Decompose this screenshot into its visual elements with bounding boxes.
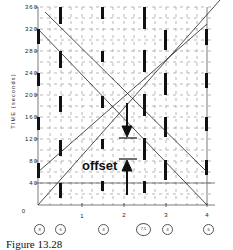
y-tick-label: 40 [18,180,38,186]
circled-label: 6 [55,224,66,235]
y-tick-label: 0 [14,208,26,214]
y-tick-label: 280 [18,48,38,54]
x-tick-label: 3 [161,212,171,218]
y-tick-label: 160 [18,114,38,120]
y-tick-label: 80 [18,158,38,164]
x-tick-label: 4 [202,212,212,218]
outbound-band-lower [38,0,220,205]
inbound-band-upper [45,12,207,172]
circled-label: 6 [98,224,109,235]
y-tick-label: 240 [18,70,38,76]
circled-label: 7.5 [136,223,151,236]
y-axis-label: TIME (seconds) [10,66,16,136]
circled-label: 8 [34,224,45,235]
circled-label: 6 [162,224,173,235]
y-tick-label: 360 [18,4,38,10]
down-arrow-head-icon [122,126,132,137]
circled-label: 6 [203,224,214,235]
x-tick-label: 2 [119,212,129,218]
y-tick-label: 320 [18,26,38,32]
y-tick-label: 120 [18,136,38,142]
x-tick-label: 1 [77,213,87,219]
offset-label: offset [82,158,117,173]
progression-bands [38,0,220,205]
figure-caption: Figure 13.28 [6,238,62,250]
y-tick-label: 200 [18,92,38,98]
